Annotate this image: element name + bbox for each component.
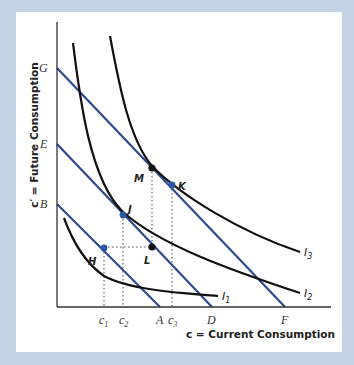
- point-J: [120, 212, 127, 219]
- label-I2: I2: [304, 287, 312, 302]
- point-L: [148, 243, 155, 250]
- label-J: J: [126, 204, 132, 215]
- indifference-curve-I3: [110, 36, 300, 252]
- label-c2: c2: [119, 313, 128, 329]
- label-c1: c1: [99, 313, 108, 329]
- point-K: [169, 182, 176, 189]
- axes: [57, 22, 331, 307]
- label-I3: I3: [304, 246, 312, 261]
- label-G: G: [39, 61, 48, 75]
- label-B: B: [40, 197, 48, 211]
- label-A: A: [155, 313, 164, 327]
- indifference-curves: [64, 36, 300, 296]
- x-tick-labels: c1 c2 A c3 D F: [99, 313, 289, 329]
- label-L: L: [144, 255, 150, 266]
- label-c3: c3: [168, 313, 177, 329]
- y-axis-label: c′ = Future Consumption: [28, 62, 40, 208]
- label-F: F: [280, 313, 289, 327]
- label-E: E: [39, 137, 48, 151]
- x-axis-label: c = Current Consumption: [186, 328, 335, 340]
- label-D: D: [206, 313, 216, 327]
- y-intercept-labels: B E G: [39, 61, 48, 211]
- point-M: [148, 164, 155, 171]
- label-H: H: [88, 256, 97, 267]
- label-I1: I1: [222, 290, 230, 305]
- label-K: K: [178, 181, 187, 192]
- label-M: M: [134, 173, 144, 184]
- consumption-diagram: H J K L M B E G c1 c2 A c3 D F I1 I2 I3 …: [0, 0, 354, 365]
- point-H: [101, 245, 108, 252]
